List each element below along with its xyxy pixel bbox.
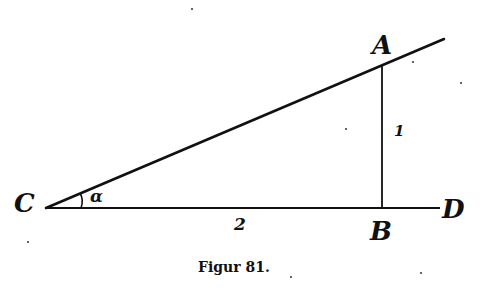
- print-speck: [412, 61, 414, 63]
- angle-label-alpha: α: [90, 188, 103, 205]
- angle-arc: [80, 193, 82, 208]
- side-label-ab: 1: [394, 124, 404, 139]
- print-speck: [191, 8, 193, 10]
- point-label-b: B: [370, 218, 392, 244]
- point-label-a: A: [372, 32, 392, 58]
- print-speck: [420, 272, 422, 274]
- point-label-c: C: [14, 190, 35, 216]
- print-speck: [345, 128, 347, 130]
- print-speck: [290, 276, 292, 278]
- triangle-figure: C α A 1 2 B D Figur 81.: [0, 0, 486, 292]
- point-label-d: D: [442, 196, 465, 222]
- figure-lines: [0, 0, 486, 292]
- figure-caption: Figur 81.: [198, 260, 270, 274]
- print-speck: [27, 241, 29, 243]
- print-speck: [460, 82, 462, 84]
- line-ca-extended: [46, 39, 444, 208]
- side-label-cb: 2: [234, 216, 246, 233]
